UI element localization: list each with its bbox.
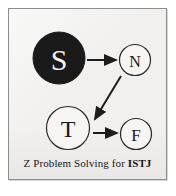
node-sensing-label: S	[51, 43, 68, 76]
diagram-panel: S N T F Z Problem So	[8, 8, 167, 180]
caption-type-code: ISTJ	[128, 157, 152, 169]
node-thinking-label: T	[61, 116, 76, 142]
node-thinking[interactable]: T	[47, 107, 90, 150]
diagram-stage: S N T F	[9, 9, 166, 179]
edge-intuition-to-thinking	[95, 76, 121, 119]
node-intuition[interactable]: N	[120, 45, 151, 76]
node-feeling-label: F	[131, 126, 140, 145]
caption-lead-text: Z Problem Solving for	[24, 157, 128, 169]
figure-caption: Z Problem Solving for ISTJ	[9, 157, 166, 170]
z-model-diagram: S N T F	[9, 9, 166, 179]
node-intuition-label: N	[129, 53, 141, 70]
node-feeling[interactable]: F	[121, 119, 152, 150]
figure-root: S N T F Z Problem So	[0, 0, 176, 196]
node-sensing[interactable]: S	[33, 32, 85, 84]
